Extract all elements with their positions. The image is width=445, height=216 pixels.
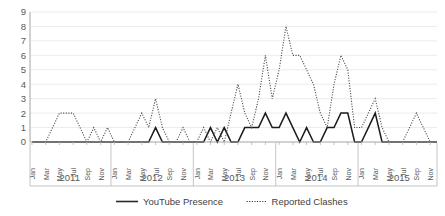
x-axis-month-label: Nov (262, 168, 269, 181)
x-axis-month-label: Sep (331, 168, 339, 181)
chart-legend: YouTube PresenceReported Clashes (116, 196, 348, 207)
x-axis-month-label: Sep (84, 168, 92, 181)
y-axis-tick-label: 5 (21, 64, 26, 75)
x-axis-month-label: Mar (207, 167, 214, 180)
x-axis-month-label: Nov (345, 168, 352, 181)
x-axis-month-label: Jan (276, 168, 283, 179)
legend-label: YouTube Presence (143, 196, 223, 207)
x-axis-month-label: Jan (358, 168, 365, 179)
y-axis-tick-label: 6 (21, 50, 26, 61)
y-axis-tick-label: 3 (21, 93, 26, 104)
chart-container: 9876543210 JanMarMayJulSepNovJanMarMayJu… (0, 0, 445, 216)
x-axis-month-label: Mar (372, 167, 379, 180)
x-axis-month-label: Nov (427, 168, 434, 181)
x-axis-month-label: Sep (413, 168, 421, 181)
x-axis-year-label: 2014 (306, 172, 327, 183)
legend-label: Reported Clashes (272, 196, 348, 207)
y-axis-tick-label: 1 (21, 122, 26, 133)
y-axis-tick-labels: 9876543210 (21, 6, 26, 147)
x-axis-month-label: Nov (180, 168, 187, 181)
x-axis-month-label: Jan (194, 168, 201, 179)
y-axis-tick-label: 0 (21, 136, 26, 147)
y-axis-tick-label: 7 (21, 35, 26, 46)
x-axis-month-label: Mar (43, 167, 50, 180)
x-axis-year-label: 2015 (389, 172, 410, 183)
y-axis-tick-label: 4 (21, 79, 26, 90)
x-axis-month-label: Nov (98, 168, 105, 181)
y-axis-tick-label: 2 (21, 108, 26, 119)
axis-lines-group (30, 12, 437, 142)
x-axis-month-label: Jan (111, 168, 118, 179)
x-axis-month-label: Sep (166, 168, 174, 181)
x-axis-year-label: 2013 (224, 172, 245, 183)
line-chart: 9876543210 JanMarMayJulSepNovJanMarMayJu… (0, 0, 445, 216)
y-axis-tick-label: 9 (21, 6, 26, 17)
x-axis-year-label: 2012 (142, 172, 163, 183)
y-axis-tick-label: 8 (21, 21, 26, 32)
x-axis-month-label: Mar (290, 167, 297, 180)
x-axis-month-label: Sep (249, 168, 257, 181)
gridlines-group (31, 12, 437, 128)
x-axis-year-label: 2011 (60, 172, 80, 183)
x-axis-month-label: Mar (125, 167, 132, 180)
